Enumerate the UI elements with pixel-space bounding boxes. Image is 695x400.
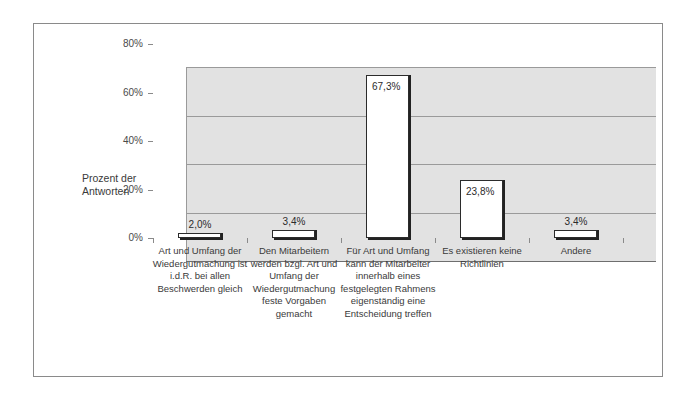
- x-axis-tick-mark: [435, 238, 436, 243]
- y-axis-tick-label: 0%: [109, 233, 143, 243]
- x-axis-tick-mark: [341, 238, 342, 243]
- bar[interactable]: [178, 233, 221, 238]
- bar-slot: 67,3%: [341, 44, 435, 238]
- bar-slot: 3,4%: [529, 44, 623, 238]
- x-axis-category-label: Art und Umfang der Wiedergutmachung ist …: [152, 245, 248, 295]
- x-axis-tick-mark: [623, 238, 624, 243]
- bar[interactable]: [554, 230, 597, 238]
- x-axis-tick-mark: [529, 238, 530, 243]
- x-axis-tick-mark: [247, 238, 248, 243]
- x-axis-category-label: Den Mitarbeitern werden bzgl. Art und Um…: [246, 245, 342, 320]
- bar[interactable]: [366, 75, 409, 238]
- x-axis-category-label: Für Art und Umfang kann der Mitarbeiter …: [340, 245, 436, 320]
- bar-slot: 2,0%: [153, 44, 247, 238]
- bar-value-label: 2,0%: [153, 219, 247, 230]
- chart-frame: Prozent der Antworten 0%20%40%60%80% 2,0…: [33, 23, 663, 377]
- x-axis-tick-mark: [153, 238, 154, 243]
- bar-value-label: 3,4%: [247, 216, 341, 227]
- x-axis-category-label: Andere: [528, 245, 624, 258]
- y-axis-tick-label: 60%: [109, 88, 143, 98]
- y-axis-tick-label: 20%: [109, 185, 143, 195]
- bar-slot: 3,4%: [247, 44, 341, 238]
- bar-value-label: 23,8%: [435, 186, 529, 197]
- bar-value-label: 3,4%: [529, 216, 623, 227]
- bar-slot: 23,8%: [435, 44, 529, 238]
- bar[interactable]: [272, 230, 315, 238]
- x-axis-category-label: Es existieren keine Richtlinien: [434, 245, 530, 270]
- y-axis-tick-label: 40%: [109, 136, 143, 146]
- bar-value-label: 67,3%: [341, 81, 435, 92]
- y-axis-tick-label: 80%: [109, 39, 143, 49]
